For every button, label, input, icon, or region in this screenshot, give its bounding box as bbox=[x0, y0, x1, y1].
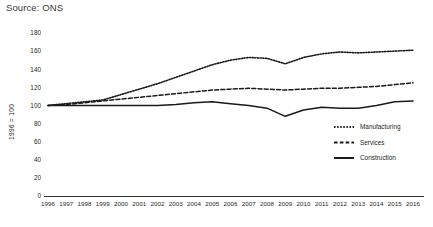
x-tick-label: 2008 bbox=[260, 200, 274, 207]
legend-item-manufacturing: Manufacturing bbox=[334, 123, 401, 131]
series-line-construction bbox=[48, 101, 413, 116]
chart-figure: Source: ONS 020406080100120140160180 199… bbox=[0, 0, 433, 227]
x-tick-label: 2014 bbox=[370, 200, 384, 207]
x-tick-label: 1998 bbox=[78, 200, 92, 207]
x-tick-label: 2013 bbox=[351, 200, 365, 207]
y-axis-tick-labels: 020406080100120140160180 bbox=[30, 29, 41, 199]
legend-item-construction: Construction bbox=[334, 154, 396, 161]
x-tick-label: 2002 bbox=[151, 200, 165, 207]
y-tick-label: 180 bbox=[30, 29, 41, 36]
x-tick-label: 2009 bbox=[278, 200, 292, 207]
y-tick-label: 100 bbox=[30, 102, 41, 109]
y-tick-label: 160 bbox=[30, 47, 41, 54]
y-tick-label: 80 bbox=[34, 120, 42, 127]
x-tick-label: 2003 bbox=[169, 200, 183, 207]
line-chart: 020406080100120140160180 199619971998199… bbox=[0, 0, 433, 227]
x-tick-label: 2010 bbox=[297, 200, 311, 207]
y-tick-label: 60 bbox=[34, 138, 42, 145]
y-tick-label: 120 bbox=[30, 84, 41, 91]
x-tick-label: 2000 bbox=[114, 200, 128, 207]
x-tick-label: 2004 bbox=[187, 200, 201, 207]
x-tick-label: 1999 bbox=[96, 200, 110, 207]
x-tick-label: 2016 bbox=[406, 200, 420, 207]
y-tick-label: 40 bbox=[34, 156, 42, 163]
x-tick-label: 1997 bbox=[59, 200, 73, 207]
legend-label: Construction bbox=[360, 154, 396, 161]
legend-label: Services bbox=[360, 139, 385, 146]
x-tick-label: 1996 bbox=[41, 200, 55, 207]
x-tick-label: 2006 bbox=[224, 200, 238, 207]
y-tick-label: 140 bbox=[30, 66, 41, 73]
chart-legend: ManufacturingServicesConstruction bbox=[334, 123, 401, 161]
x-tick-label: 2007 bbox=[242, 200, 256, 207]
y-tick-label: 20 bbox=[34, 174, 42, 181]
y-tick-label: 0 bbox=[37, 192, 41, 199]
x-axis-tick-labels: 1996199719981999200020012002200320042005… bbox=[41, 200, 420, 207]
x-tick-label: 2011 bbox=[315, 200, 329, 207]
legend-label: Manufacturing bbox=[360, 123, 401, 131]
y-axis-title: 1996 = 100 bbox=[8, 104, 15, 140]
x-tick-label: 2005 bbox=[205, 200, 219, 207]
series-line-manufacturing bbox=[48, 50, 413, 105]
x-tick-label: 2001 bbox=[132, 200, 146, 207]
x-tick-label: 2015 bbox=[388, 200, 402, 207]
data-series-group bbox=[48, 50, 413, 116]
series-line-services bbox=[48, 83, 413, 106]
legend-item-services: Services bbox=[334, 139, 385, 146]
x-tick-label: 2012 bbox=[333, 200, 347, 207]
